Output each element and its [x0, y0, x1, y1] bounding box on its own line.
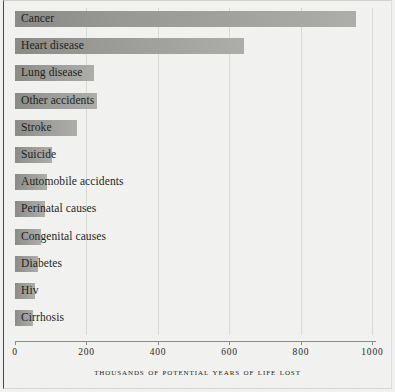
bar-row: Cirrhosis — [15, 310, 376, 326]
x-axis-title: Thousands Of Potential Years Of Life Los… — [0, 366, 395, 377]
bar — [15, 11, 356, 27]
bar-row: Cancer — [15, 11, 376, 27]
x-tick — [158, 341, 159, 345]
bar-row: Diabetes — [15, 256, 376, 272]
x-tick — [372, 341, 373, 345]
bar-row: Automobile accidents — [15, 174, 376, 190]
bar-category-label: Heart disease — [21, 37, 84, 54]
bar-row: Hiv — [15, 283, 376, 299]
bar-category-label: Cancer — [21, 10, 54, 27]
x-tick-label: 600 — [221, 347, 238, 357]
bar-category-label: Automobile accidents — [21, 173, 124, 190]
x-tick-label: 200 — [78, 347, 95, 357]
x-axis-line — [15, 341, 376, 342]
bar-row: Stroke — [15, 120, 376, 136]
bar-category-label: Diabetes — [21, 255, 62, 272]
x-tick-label: 1000 — [361, 347, 383, 357]
bar-category-label: Hiv — [21, 282, 39, 299]
plot-area: CancerHeart diseaseLung diseaseOther acc… — [15, 8, 376, 335]
x-tick — [301, 341, 302, 345]
x-tick-label: 400 — [150, 347, 167, 357]
x-tick-label: 800 — [293, 347, 310, 357]
bar-row: Heart disease — [15, 38, 376, 54]
bar-row: Other accidents — [15, 93, 376, 109]
bar-row: Lung disease — [15, 65, 376, 81]
bar-category-label: Lung disease — [21, 64, 83, 81]
bar-rows: CancerHeart diseaseLung diseaseOther acc… — [15, 8, 376, 335]
bar-category-label: Congenital causes — [21, 228, 106, 245]
x-tick — [229, 341, 230, 345]
bar-category-label: Other accidents — [21, 92, 94, 109]
bar-row: Perinatal causes — [15, 201, 376, 217]
bar-category-label: Perinatal causes — [21, 200, 96, 217]
bar-category-label: Cirrhosis — [21, 309, 64, 326]
bar-category-label: Stroke — [21, 119, 52, 136]
bar-row: Suicide — [15, 147, 376, 163]
x-tick — [15, 341, 16, 345]
x-tick-label: 0 — [12, 347, 18, 357]
chart-page: CancerHeart diseaseLung diseaseOther acc… — [0, 0, 395, 392]
bar-row: Congenital causes — [15, 229, 376, 245]
x-tick — [86, 341, 87, 345]
bar-category-label: Suicide — [21, 146, 56, 163]
